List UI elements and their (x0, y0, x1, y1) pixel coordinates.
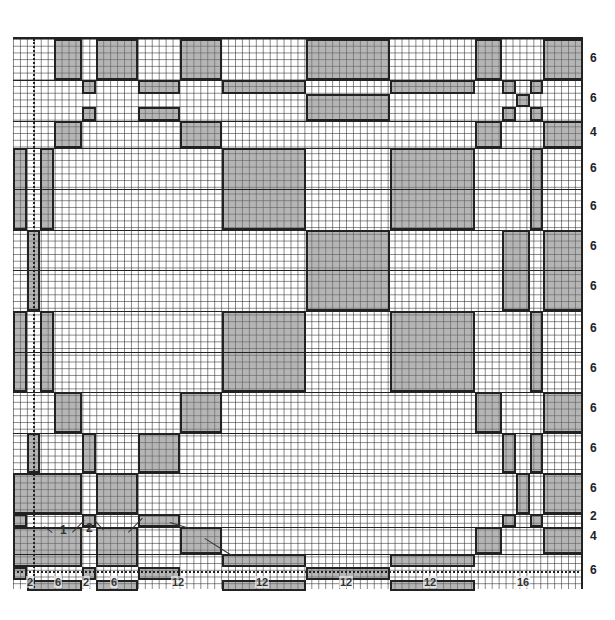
shaded-block (516, 94, 530, 107)
shaded-block (180, 121, 222, 148)
shaded-block (530, 433, 543, 473)
shaded-block (530, 80, 543, 94)
row-count-label: 4 (590, 125, 597, 139)
row-count-label: 6 (590, 321, 597, 335)
shaded-block (138, 514, 180, 527)
shaded-block (530, 107, 543, 121)
shaded-block (222, 554, 306, 567)
row-count-label: 6 (590, 51, 597, 65)
row-count-label: 6 (590, 481, 597, 495)
band-divider (13, 230, 583, 231)
annotation-number: 2 (86, 521, 93, 535)
shaded-block (502, 107, 516, 121)
column-count-label: 12 (255, 576, 269, 588)
row-count-label: 6 (590, 401, 597, 415)
shaded-block (306, 39, 390, 80)
band-divider (13, 121, 583, 122)
shaded-block (516, 473, 530, 514)
shaded-block (390, 80, 475, 94)
row-count-label: 6 (590, 239, 597, 253)
shaded-block (13, 527, 82, 567)
shaded-block (96, 39, 138, 80)
shaded-block (54, 392, 82, 433)
band-divider (13, 527, 583, 528)
dotted-guide-horizontal (13, 571, 583, 573)
column-count-label: 2 (82, 576, 90, 588)
row-count-label: 6 (590, 563, 597, 577)
band-divider (13, 554, 583, 555)
row-count-label: 6 (590, 199, 597, 213)
row-count-label: 6 (590, 279, 597, 293)
shaded-block (475, 527, 502, 554)
band-divider (13, 80, 583, 81)
shaded-block (502, 514, 516, 527)
shaded-block (543, 39, 583, 80)
shaded-block (475, 39, 502, 80)
shaded-block (475, 121, 502, 148)
band-divider (13, 352, 583, 353)
shaded-block (54, 121, 82, 148)
shaded-block (306, 94, 390, 121)
shaded-block (82, 80, 96, 94)
plaid-grid-chart (13, 37, 583, 589)
dotted-guide-vertical (33, 39, 35, 591)
shaded-block (180, 392, 222, 433)
shaded-block (138, 80, 180, 94)
band-divider (13, 148, 583, 149)
shaded-block (96, 527, 138, 567)
band-divider (13, 189, 583, 190)
band-divider (13, 473, 583, 474)
column-count-label: 12 (423, 576, 437, 588)
shaded-block (82, 433, 96, 473)
shaded-block (54, 39, 82, 80)
shaded-block (222, 80, 306, 94)
shaded-block (96, 473, 138, 514)
shaded-block (180, 527, 222, 554)
shaded-block (530, 514, 543, 527)
band-divider (13, 433, 583, 434)
column-count-label: 2 (26, 576, 34, 588)
shaded-block (180, 39, 222, 80)
row-count-label: 6 (590, 361, 597, 375)
shaded-block (138, 433, 180, 473)
column-count-label: 6 (110, 576, 118, 588)
shaded-block (390, 554, 475, 567)
shaded-block (13, 567, 27, 580)
shaded-block (502, 433, 516, 473)
band-divider (13, 270, 583, 271)
shaded-block (502, 80, 516, 94)
row-count-label: 4 (590, 529, 597, 543)
row-count-label: 6 (590, 161, 597, 175)
shaded-block (543, 473, 583, 514)
shaded-block (475, 392, 502, 433)
column-count-label: 12 (339, 576, 353, 588)
shaded-block (543, 392, 583, 433)
shaded-block (543, 527, 583, 554)
column-count-label: 16 (516, 576, 530, 588)
band-divider (13, 311, 583, 312)
column-count-label: 6 (54, 576, 62, 588)
row-count-label: 6 (590, 441, 597, 455)
shaded-block (82, 107, 96, 121)
shaded-block (13, 514, 27, 527)
band-divider (13, 392, 583, 393)
column-count-label: 12 (171, 576, 185, 588)
row-count-label: 2 (590, 509, 597, 523)
band-divider (13, 514, 583, 515)
shaded-block (13, 473, 82, 514)
shaded-block (543, 121, 583, 148)
annotation-number: 1 (60, 523, 67, 537)
row-count-label: 6 (590, 91, 597, 105)
shaded-block (138, 107, 180, 121)
